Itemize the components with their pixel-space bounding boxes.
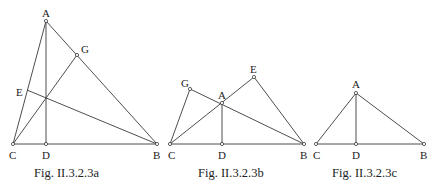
segment-be bbox=[27, 90, 157, 144]
point-d bbox=[44, 142, 47, 145]
caption-b: Fig. II.3.2.3b bbox=[198, 166, 264, 180]
label-e: E bbox=[16, 86, 23, 98]
label-d: D bbox=[42, 149, 50, 161]
figure-a: A G E C D B Fig. II.3.2.3a bbox=[9, 7, 160, 180]
point-e bbox=[252, 75, 255, 78]
label-b: B bbox=[300, 149, 307, 161]
point-c bbox=[11, 142, 14, 145]
figure-c: A C D B Fig. II.3.2.3c bbox=[313, 78, 427, 180]
caption-c: Fig. II.3.2.3c bbox=[332, 166, 397, 180]
label-c: C bbox=[313, 149, 320, 161]
point-b bbox=[155, 142, 158, 145]
label-d: D bbox=[352, 149, 360, 161]
segment-eb bbox=[254, 77, 304, 144]
label-g: G bbox=[181, 77, 189, 89]
point-c bbox=[168, 142, 171, 145]
label-b: B bbox=[153, 149, 160, 161]
point-a bbox=[220, 101, 223, 104]
label-a: A bbox=[352, 78, 360, 90]
caption-a: Fig. II.3.2.3a bbox=[34, 166, 99, 180]
segment-ac bbox=[13, 21, 46, 144]
label-e: E bbox=[250, 63, 257, 75]
point-d bbox=[220, 142, 223, 145]
label-c: C bbox=[168, 149, 175, 161]
label-a: A bbox=[42, 7, 50, 19]
point-a bbox=[354, 91, 357, 94]
geometry-figures: A G E C D B Fig. II.3.2.3a G E A C D B F… bbox=[0, 0, 436, 189]
figure-b: G E A C D B Fig. II.3.2.3b bbox=[168, 63, 307, 180]
point-b bbox=[422, 142, 425, 145]
point-d bbox=[354, 142, 357, 145]
segment-ab bbox=[46, 21, 157, 144]
label-a: A bbox=[218, 89, 226, 101]
segment-ac bbox=[316, 93, 356, 144]
segment-gb bbox=[190, 89, 304, 144]
point-c bbox=[314, 142, 317, 145]
segment-cg bbox=[13, 55, 77, 144]
label-d: D bbox=[218, 149, 226, 161]
label-b: B bbox=[420, 149, 427, 161]
label-g: G bbox=[81, 43, 89, 55]
segment-ab bbox=[356, 93, 424, 144]
label-c: C bbox=[9, 149, 16, 161]
point-b bbox=[302, 142, 305, 145]
point-g bbox=[75, 53, 78, 56]
point-a bbox=[44, 19, 47, 22]
